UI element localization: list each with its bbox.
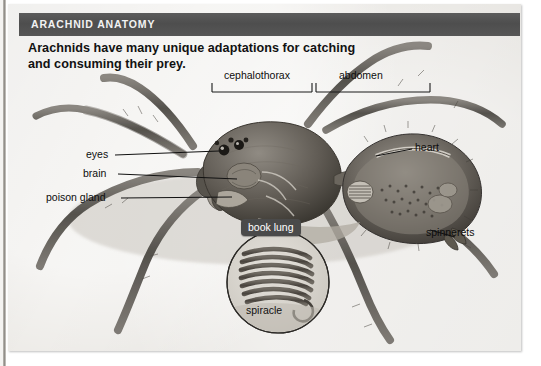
book-gutter-line [3,0,6,366]
callout-label-eyes: eyes [86,148,108,160]
section-header-bar: ARACHNID ANATOMY [19,13,520,36]
callout-label-heart: heart [415,141,439,153]
section-title: ARACHNID ANATOMY [31,18,155,30]
callout-label-brain: brain [83,167,106,179]
callout-label-spinnerets: spinnerets [426,226,474,238]
inset-badge-book-lung: book lung [241,219,301,236]
bracket-label-abdomen: abdomen [339,69,383,81]
callout-label-poison-gland: poison gland [46,191,106,203]
textbook-page: ARACHNID ANATOMY Arachnids have many uni… [8,4,521,351]
figure-screenshot: ARACHNID ANATOMY Arachnids have many uni… [0,0,541,366]
bracket-label-cephalothorax: cephalothorax [224,69,290,81]
inset-label-spiracle: spiracle [246,304,282,316]
caption-line-2: and consuming their prey. [28,57,186,71]
caption-line-1: Arachnids have many unique adaptations f… [28,41,355,55]
figure-caption: Arachnids have many unique adaptations f… [28,40,458,72]
